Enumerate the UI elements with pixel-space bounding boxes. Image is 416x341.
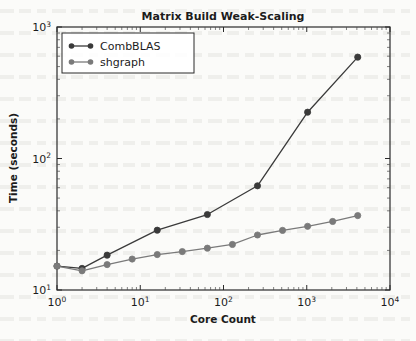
data-point <box>330 218 336 224</box>
data-point <box>204 245 210 251</box>
legend-marker <box>69 59 75 65</box>
chart-title: Matrix Build Weak-Scaling <box>142 10 305 23</box>
chart-legend: CombBLASshgraph <box>62 33 194 73</box>
tick-label: 102 <box>214 295 233 310</box>
data-point <box>204 211 210 217</box>
chart-title-group: Matrix Build Weak-Scaling <box>142 10 305 23</box>
tick-label: 103 <box>32 20 51 35</box>
tick-label: 100 <box>48 295 67 310</box>
legend-label: CombBLAS <box>100 40 161 53</box>
data-point <box>279 227 285 233</box>
data-point <box>179 248 185 254</box>
data-point <box>229 241 235 247</box>
series-shgraph <box>54 212 361 273</box>
series-combblas <box>54 54 361 271</box>
data-point <box>104 262 110 268</box>
series-line <box>57 57 358 268</box>
data-point <box>254 232 260 238</box>
tick-label: 104 <box>381 295 400 310</box>
tick-label: 103 <box>297 295 316 310</box>
data-point <box>154 251 160 257</box>
x-axis-label: Core Count <box>190 313 256 325</box>
data-point <box>355 54 361 60</box>
legend-marker <box>69 43 75 49</box>
tick-label: 102 <box>32 151 51 166</box>
data-point <box>104 252 110 258</box>
tick-label: 101 <box>131 295 150 310</box>
matrix-build-weak-scaling-chart: Matrix Build Weak-Scaling 10010110210310… <box>0 0 416 341</box>
data-point <box>154 227 160 233</box>
y-axis-label: Time (seconds) <box>7 113 19 203</box>
series-line <box>57 216 358 271</box>
legend-label: shgraph <box>100 56 145 69</box>
legend-marker <box>88 59 94 65</box>
data-point <box>305 223 311 229</box>
data-point <box>305 109 311 115</box>
data-point <box>129 256 135 262</box>
tick-label: 101 <box>32 283 51 298</box>
data-point <box>79 268 85 274</box>
data-point <box>254 183 260 189</box>
chart-figure: Matrix Build Weak-Scaling 10010110210310… <box>0 0 416 341</box>
data-point <box>54 263 60 269</box>
legend-marker <box>88 43 94 49</box>
data-series-layer <box>54 54 361 274</box>
data-point <box>355 212 361 218</box>
